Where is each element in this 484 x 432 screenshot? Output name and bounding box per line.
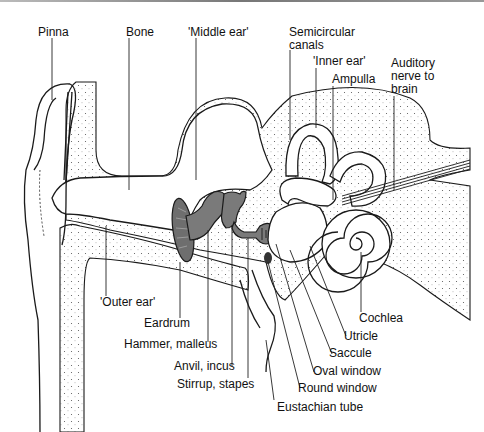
label-saccule: Saccule: [329, 346, 372, 360]
label-hammer: Hammer, malleus: [124, 337, 217, 351]
label-utricle: Utricle: [344, 329, 378, 343]
label-inner-ear: 'Inner ear': [313, 54, 366, 68]
label-nerve-to: nerve to: [391, 69, 435, 83]
label-oval-window: Oval window: [313, 364, 381, 378]
label-cochlea: Cochlea: [359, 311, 403, 325]
label-middle-ear: 'Middle ear': [188, 25, 249, 39]
label-anvil: Anvil, incus: [174, 359, 235, 373]
label-semicircular: Semicircular: [289, 25, 355, 39]
label-bone: Bone: [126, 25, 154, 39]
label-canals: canals: [289, 38, 324, 52]
label-auditory: Auditory: [391, 56, 435, 70]
label-outer-ear: 'Outer ear': [100, 295, 155, 309]
label-pinna: Pinna: [38, 25, 69, 39]
label-eustachian: Eustachian tube: [277, 400, 363, 414]
label-brain: brain: [391, 82, 418, 96]
label-eardrum: Eardrum: [144, 316, 190, 330]
ear-diagram: Pinna Bone 'Middle ear' Semicircular can…: [0, 0, 484, 432]
label-ampulla: Ampulla: [332, 72, 376, 86]
label-round-window: Round window: [298, 381, 377, 395]
label-stirrup: Stirrup, stapes: [177, 377, 254, 391]
